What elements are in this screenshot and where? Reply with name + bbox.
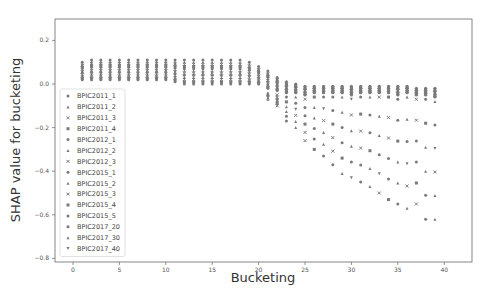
y-tick-label: 0.0 <box>39 80 49 87</box>
legend-label: BPIC2017_30 <box>77 234 120 242</box>
legend-label: BPIC2015_1 <box>77 169 116 177</box>
scatter-chart: 0510152025303540 0.20.0−0.2−0.4−0.6−0.8 … <box>0 0 489 301</box>
data-points <box>81 59 437 221</box>
y-tick-label: −0.8 <box>34 254 49 261</box>
legend-label: BPIC2017_40 <box>77 245 120 253</box>
x-tick-label: 25 <box>301 266 309 273</box>
x-tick-label: 0 <box>71 266 75 273</box>
x-axis-title: Bucketing <box>231 270 296 285</box>
y-tick-label: −0.2 <box>34 124 49 131</box>
legend-label: BPIC2011_4 <box>77 125 116 133</box>
x-tick-label: 40 <box>440 266 448 273</box>
x-tick-label: 30 <box>348 266 356 273</box>
y-tick-label: −0.6 <box>34 211 49 218</box>
legend-label: BPIC2012_3 <box>77 158 116 166</box>
x-tick-label: 10 <box>162 266 170 273</box>
legend-label: BPIC2011_3 <box>77 114 116 122</box>
x-tick-label: 15 <box>208 266 216 273</box>
legend-label: BPIC2011_2 <box>77 103 116 111</box>
legend-label: BPIC2012_1 <box>77 136 116 144</box>
legend: BPIC2011_1BPIC2011_2BPIC2011_3BPIC2011_4… <box>60 89 125 257</box>
x-tick-label: 5 <box>117 266 121 273</box>
y-axis-title: SHAP value for bucketing <box>8 58 23 222</box>
legend-label: BPIC2017_20 <box>77 223 120 231</box>
legend-label: BPIC2011_1 <box>77 92 116 100</box>
y-axis-ticks: 0.20.0−0.2−0.4−0.6−0.8 <box>34 36 55 261</box>
legend-label: BPIC2015_5 <box>77 212 116 220</box>
legend-label: BPIC2015_4 <box>77 201 116 209</box>
y-tick-label: −0.4 <box>34 167 49 174</box>
y-tick-label: 0.2 <box>39 36 49 43</box>
legend-label: BPIC2015_2 <box>77 180 116 188</box>
x-tick-label: 35 <box>394 266 402 273</box>
legend-label: BPIC2015_3 <box>77 190 116 198</box>
legend-label: BPIC2012_2 <box>77 147 116 155</box>
